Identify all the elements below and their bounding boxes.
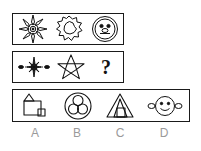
smiley-face-icon bbox=[90, 14, 120, 44]
option-d[interactable] bbox=[143, 90, 187, 121]
small-burst-with-side-ovals-icon bbox=[17, 54, 51, 80]
starburst-flower-icon bbox=[18, 14, 48, 44]
option-label-a: A bbox=[20, 124, 50, 142]
options-row bbox=[12, 89, 190, 122]
analogy-puzzle: ? bbox=[0, 0, 201, 151]
option-label-b: B bbox=[62, 124, 92, 142]
cell-row1-1 bbox=[15, 14, 51, 44]
circle-with-three-circles-icon bbox=[63, 91, 93, 121]
cell-row2-2 bbox=[53, 52, 89, 82]
option-b[interactable] bbox=[57, 90, 99, 121]
top-sequence-row bbox=[12, 13, 124, 45]
question-mark: ? bbox=[101, 57, 111, 77]
option-label-d: D bbox=[149, 124, 179, 142]
cloud-blob-icon bbox=[54, 14, 84, 44]
cell-row1-3 bbox=[87, 14, 123, 44]
five-point-star-icon bbox=[57, 53, 85, 81]
face-with-side-ovals-icon bbox=[147, 93, 183, 119]
bottom-sequence-row: ? bbox=[12, 51, 124, 83]
option-a[interactable] bbox=[15, 90, 57, 121]
option-label-c: C bbox=[105, 124, 135, 142]
option-c[interactable] bbox=[99, 90, 143, 121]
triangle-with-inner-shapes-icon bbox=[105, 92, 137, 120]
cell-row2-1 bbox=[15, 52, 53, 82]
cell-row1-2 bbox=[51, 14, 87, 44]
option-labels: A B C D bbox=[12, 124, 190, 146]
square-triangle-small-square-icon bbox=[20, 92, 52, 120]
cell-row2-3-answer-slot[interactable]: ? bbox=[89, 52, 123, 82]
